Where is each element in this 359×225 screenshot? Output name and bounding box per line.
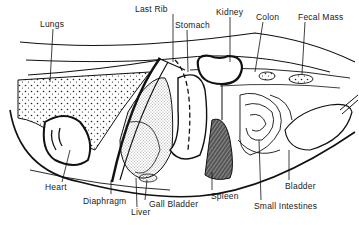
label-fecal-mass: Fecal Mass [298,12,343,22]
label-liver: Liver [131,207,150,217]
bladder-shape [285,104,352,150]
fecal-mass-2 [289,75,313,84]
label-stomach: Stomach [175,20,210,30]
label-heart: Heart [45,182,67,192]
fecal-mass-1 [259,72,275,80]
small-intestines-shape [238,93,292,155]
label-last-rib: Last Rib [135,4,168,14]
label-diaphragm: Diaphragm [83,196,126,206]
label-bladder: Bladder [285,181,316,191]
anatomy-diagram: Lungs Last Rib Stomach Kidney Colon Feca… [0,0,359,225]
label-gall-bladder: Gall Bladder [149,199,198,209]
label-small-intestines: Small Intestines [254,201,317,211]
label-colon: Colon [256,12,279,22]
label-kidney: Kidney [216,7,243,17]
label-spleen: Spleen [211,191,239,201]
label-lungs: Lungs [40,19,64,29]
gall-bladder-shape [139,174,157,182]
spleen-shape [205,119,233,179]
kidney-shape [198,56,242,84]
